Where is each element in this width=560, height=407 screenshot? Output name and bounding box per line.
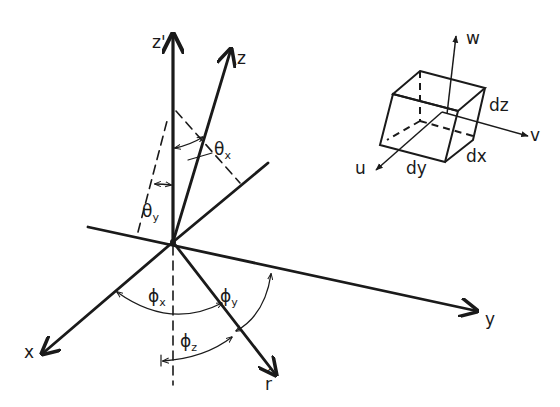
y-axis <box>88 227 477 311</box>
label-phi-x: ϕx <box>148 286 166 309</box>
label-y: y <box>485 309 495 329</box>
label-x: x <box>24 342 34 362</box>
label-theta-x: θx <box>214 139 231 162</box>
theta-y-arc <box>155 184 171 185</box>
label-dy: dy <box>406 158 427 178</box>
label-v: v <box>530 125 540 145</box>
coordinate-diagram: z' z y x r ^ θx θy ϕx ϕy ϕz w v u dz dx … <box>0 0 560 407</box>
label-phi-z: ϕz <box>180 331 197 354</box>
theta-x-arc <box>175 137 203 148</box>
w-axis <box>447 36 456 114</box>
label-z-prime: z' <box>152 32 166 52</box>
label-phi-y: ϕy <box>220 286 238 309</box>
phi-y-arc <box>236 274 271 331</box>
label-w: w <box>466 28 480 48</box>
origin-point <box>170 239 176 245</box>
projection-line <box>173 163 268 242</box>
label-theta-y: θy <box>142 201 159 224</box>
label-z: z <box>237 48 246 68</box>
label-u: u <box>355 158 366 178</box>
label-dz: dz <box>489 95 509 115</box>
phi-x-arc <box>117 292 222 314</box>
label-dx: dx <box>466 146 487 166</box>
label-r-hat-accent: ^ <box>265 366 276 381</box>
r-hat-vector <box>173 242 276 375</box>
